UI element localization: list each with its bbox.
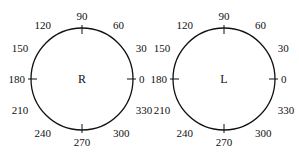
angle-label-270: 270 (74, 136, 91, 148)
center-label: R (78, 72, 86, 86)
polar-diagram-right: 0306090120150180210240270300330R (9, 10, 153, 148)
angle-label-270: 270 (216, 136, 233, 148)
angle-label-150: 150 (12, 42, 29, 54)
angle-label-240: 240 (177, 127, 194, 139)
angle-label-150: 150 (154, 42, 171, 54)
angle-label-300: 300 (113, 127, 130, 139)
angle-label-240: 240 (35, 127, 52, 139)
angle-label-60: 60 (113, 19, 125, 31)
center-label: L (220, 72, 227, 86)
angle-label-210: 210 (12, 104, 29, 116)
angle-label-0: 0 (281, 73, 287, 85)
angle-label-30: 30 (278, 42, 290, 54)
polar-diagrams: 0306090120150180210240270300330R 0306090… (0, 0, 299, 153)
angle-label-60: 60 (255, 19, 267, 31)
angle-label-330: 330 (136, 104, 153, 116)
angle-label-210: 210 (154, 104, 171, 116)
angle-label-0: 0 (139, 73, 145, 85)
angle-label-30: 30 (136, 42, 148, 54)
polar-diagram-left: 0306090120150180210240270300330L (151, 10, 295, 148)
angle-label-120: 120 (35, 19, 52, 31)
angle-label-330: 330 (278, 104, 295, 116)
angle-label-180: 180 (9, 73, 26, 85)
angle-label-300: 300 (255, 127, 272, 139)
angle-label-90: 90 (219, 10, 231, 22)
angle-label-90: 90 (77, 10, 89, 22)
angle-label-120: 120 (177, 19, 194, 31)
angle-label-180: 180 (151, 73, 168, 85)
